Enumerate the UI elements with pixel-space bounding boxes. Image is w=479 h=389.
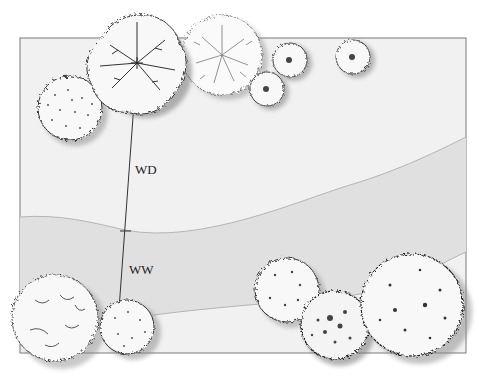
ww-label: WW: [129, 262, 154, 278]
large-deciduous-tree-icon: [87, 15, 192, 118]
wd-label: WD: [135, 162, 157, 178]
landscape-plan-drawing: [0, 0, 479, 389]
